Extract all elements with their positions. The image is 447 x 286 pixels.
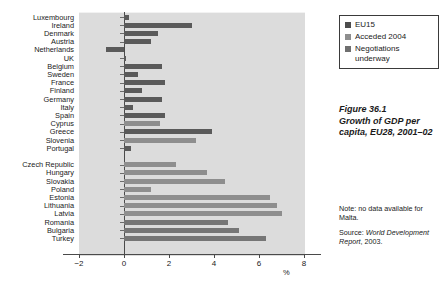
x-axis-tick <box>124 254 125 258</box>
legend-swatch-icon-negotiations-underway <box>345 46 351 52</box>
bar <box>124 105 133 110</box>
x-axis-tick <box>214 254 215 258</box>
x-axis-tick <box>169 254 170 258</box>
bar <box>124 129 212 134</box>
x-axis-tick <box>79 254 80 258</box>
bar <box>124 179 225 184</box>
x-axis-tick-label: −2 <box>64 259 94 268</box>
legend-label-acceded-2004: Acceded 2004 <box>355 32 406 42</box>
figure-title-line1: Growth of GDP per <box>339 116 443 128</box>
figure-note: Note: no data available for Malta. <box>339 204 443 222</box>
x-axis-tick-label: 6 <box>244 259 274 268</box>
x-axis-baseline <box>63 254 321 255</box>
figure-container: LuxembourgIrelandDenmarkAustriaNetherlan… <box>0 0 447 286</box>
x-axis-tick <box>304 254 305 258</box>
bar <box>124 162 176 167</box>
bar <box>124 113 165 118</box>
figure-source: Source: World Development Report, 2003. <box>339 228 443 246</box>
bar <box>124 211 282 216</box>
legend-swatch-icon-acceded-2004 <box>345 34 351 40</box>
category-label: Turkey <box>0 235 74 243</box>
bar <box>124 39 151 44</box>
legend-label-negotiations-underway: Negotiations underway <box>355 44 433 63</box>
note-prefix: Note: <box>339 204 356 213</box>
legend-item-acceded-2004[interactable]: Acceded 2004 <box>345 32 433 42</box>
bar <box>124 121 160 126</box>
bar <box>124 195 270 200</box>
bar <box>124 170 207 175</box>
bar <box>124 203 277 208</box>
legend-swatch-icon-eu15 <box>345 22 351 28</box>
x-axis-tick <box>259 254 260 258</box>
figure-title-line2: capita, EU28, 2001–02 <box>339 127 443 139</box>
x-axis-tick-label: 2 <box>154 259 184 268</box>
x-axis-tick-label: 4 <box>199 259 229 268</box>
bar <box>124 56 126 61</box>
bar <box>124 80 165 85</box>
bar <box>124 187 151 192</box>
legend: EU15 Acceded 2004 Negotiations underway <box>339 15 439 69</box>
source-prefix: Source: <box>339 228 366 237</box>
x-axis-tick-label: 8 <box>289 259 319 268</box>
bar <box>124 97 162 102</box>
bar <box>124 72 138 77</box>
bar <box>124 228 239 233</box>
x-axis-tick-label: 0 <box>109 259 139 268</box>
bar <box>124 31 158 36</box>
bar <box>106 47 124 52</box>
figure-number: Figure 36.1 <box>339 104 443 116</box>
bar <box>124 146 131 151</box>
category-label: Portugal <box>0 145 74 153</box>
source-suffix: , 2003. <box>361 237 383 246</box>
bar <box>124 138 196 143</box>
bar <box>124 15 129 20</box>
figure-caption: Figure 36.1 Growth of GDP per capita, EU… <box>339 104 443 139</box>
legend-label-eu15: EU15 <box>355 20 375 30</box>
category-label: Netherlands <box>0 46 74 54</box>
bar <box>124 88 142 93</box>
bar <box>124 23 192 28</box>
x-axis-unit-label: % <box>283 268 290 277</box>
bar <box>124 220 228 225</box>
legend-item-eu15[interactable]: EU15 <box>345 20 433 30</box>
chart-row: Portugal <box>0 145 447 153</box>
bar <box>124 64 162 69</box>
bar <box>124 236 266 241</box>
legend-item-negotiations-underway[interactable]: Negotiations underway <box>345 44 433 63</box>
